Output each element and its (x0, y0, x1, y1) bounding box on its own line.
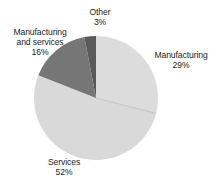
slice-label-manufacturing-and-services: Manufacturing and services 16% (0, 27, 82, 58)
slice-label-manufacturing-value: 29% (146, 60, 216, 70)
pie-chart-figure: Other 3% Manufacturing and services 16% … (0, 0, 216, 189)
slice-label-manufacturing: Manufacturing 29% (146, 50, 216, 70)
slice-label-services-name: Services (48, 157, 80, 167)
slice-label-manufacturing-name: Manufacturing (154, 50, 207, 60)
slice-label-services: Services 52% (28, 157, 100, 177)
slice-label-manufacturing-and-services-name-line1: Manufacturing (13, 27, 66, 37)
slice-label-other-name: Other (90, 7, 111, 17)
slice-label-services-value: 52% (28, 167, 100, 177)
slice-label-manufacturing-and-services-value: 16% (0, 47, 82, 57)
slice-label-other-value: 3% (60, 17, 140, 27)
slice-label-other: Other 3% (60, 7, 140, 27)
slice-label-manufacturing-and-services-name-line2: and services (0, 37, 82, 47)
